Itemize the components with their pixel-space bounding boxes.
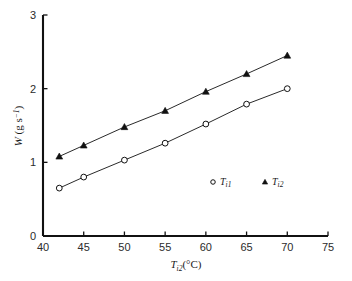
x-tick-label: 65 (240, 241, 252, 253)
y-tick-label: 1 (30, 156, 36, 168)
data-point-open-circle (211, 180, 216, 185)
data-point-open-circle (81, 174, 87, 180)
y-tick-label: 3 (30, 9, 36, 21)
y-axis-title-unit-close: ) (12, 105, 25, 109)
legend-subscript: i1 (226, 180, 232, 189)
y-axis-title-exponent: −1 (12, 109, 21, 118)
data-point-open-circle (162, 140, 168, 146)
chart-container: 4045505560657075 0123 Ti2(°C) W (g s−1) … (0, 0, 352, 281)
y-tick-label: 2 (30, 83, 36, 95)
x-tick-label: 60 (200, 241, 212, 253)
x-axis-title-unit: (°C) (182, 258, 201, 271)
chart-background (0, 0, 352, 281)
y-axis-title-unit-open: (g s (12, 118, 25, 137)
data-point-open-circle (56, 185, 62, 191)
chart-svg: 4045505560657075 0123 Ti2(°C) W (g s−1) … (0, 0, 352, 281)
x-tick-label: 75 (322, 241, 334, 253)
x-tick-label: 45 (78, 241, 90, 253)
data-point-open-circle (284, 86, 290, 92)
x-tick-label: 40 (37, 241, 49, 253)
data-point-open-circle (203, 121, 209, 127)
legend-subscript: i2 (278, 180, 284, 189)
x-tick-label: 70 (281, 241, 293, 253)
y-tick-label: 0 (30, 230, 36, 242)
data-point-open-circle (244, 101, 250, 107)
x-tick-label: 55 (159, 241, 171, 253)
data-point-open-circle (122, 157, 128, 163)
x-tick-label: 50 (118, 241, 130, 253)
